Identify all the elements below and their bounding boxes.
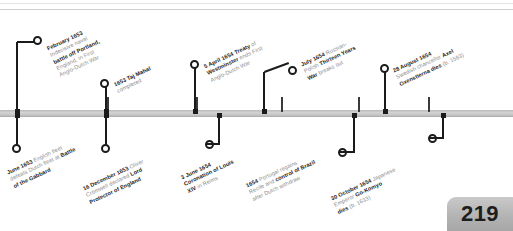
scan-line-top <box>0 3 513 4</box>
connector-stem <box>353 116 355 152</box>
event-caption-5-april-1654-westminster: 5 April 1654 Treaty of Westminster ends … <box>203 38 267 83</box>
event-ring-icon <box>101 144 110 153</box>
connector-stem <box>105 85 107 111</box>
event-caption-1654-portugal-brazil: 1654 Portugal regains Recife and control… <box>245 152 320 202</box>
connector-stem <box>384 70 386 111</box>
connector-elbow <box>207 143 220 145</box>
connector-stem <box>263 72 265 111</box>
connector-stem <box>194 66 196 111</box>
connector-stem <box>16 42 18 111</box>
axis-tick <box>428 97 430 112</box>
timeline-axis-bar <box>0 110 513 117</box>
event-ring-icon <box>288 66 297 75</box>
connector-elbow <box>264 62 289 73</box>
event-caption-30-october-1654-go-komyo: 30 October 1654 Japanese Emperor Go-Komy… <box>330 166 403 216</box>
event-ring-icon <box>100 79 109 88</box>
timeline-page: February 1653 Indecisive naval battle of… <box>0 0 513 231</box>
connector-stem <box>218 116 220 144</box>
connector-elbow <box>340 151 355 153</box>
event-caption-1653-taj-mahal: 1653 Taj Mahal completed <box>113 65 155 95</box>
event-caption-3-june-1654-louis-xiv: 3 June 1654 Coronation of Louis XIV in R… <box>180 152 238 195</box>
event-caption-july-1654-thirteen-years-war: July 1654 Russian- Polish Thirteen Years… <box>300 38 360 82</box>
scan-line-second <box>0 9 513 10</box>
event-caption-16-december-1653-cromwell: 16 December 1653 Oliver Cromwell declare… <box>82 158 151 206</box>
connector-elbow <box>430 137 444 139</box>
page-number-label: 219 <box>461 201 499 227</box>
event-ring-icon <box>380 64 389 73</box>
connector-stem <box>442 116 444 138</box>
event-caption-28-august-1654-oxenstierna: 28 August 1654 Swedish chancellor Axel O… <box>392 38 465 88</box>
page-number-badge: 219 <box>447 197 513 231</box>
connector-elbow <box>17 41 35 43</box>
event-ring-icon <box>12 144 21 153</box>
axis-tick <box>358 97 360 112</box>
event-caption-february-1653-portland: February 1653 Indecisive naval battle of… <box>46 25 107 79</box>
event-ring-icon <box>190 60 199 69</box>
axis-tick <box>281 97 283 112</box>
